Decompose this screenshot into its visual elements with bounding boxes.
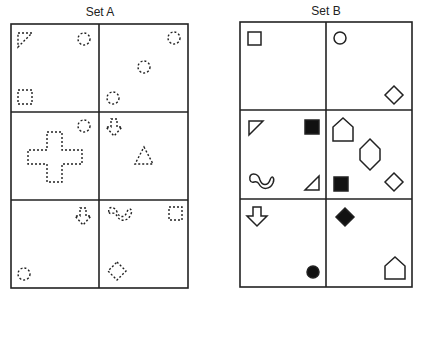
dotted-circle-icon: [18, 268, 30, 280]
down-arrow-icon: [247, 207, 267, 226]
dotted-cross-icon: [28, 132, 82, 182]
right-triangle-icon: [249, 121, 263, 135]
dotted-circle-icon: [168, 32, 180, 44]
diamond-icon: [385, 86, 403, 104]
filled-square-icon: [334, 177, 348, 191]
diamond-icon: [385, 173, 403, 191]
dotted-circle-icon: [78, 120, 90, 132]
dotted-diamond-icon: [108, 262, 126, 280]
hexagon-icon: [360, 139, 380, 170]
filled-circle-icon: [307, 266, 319, 278]
dotted-right-triangle-icon: [18, 33, 32, 47]
pentagon-house-icon: [333, 118, 353, 141]
dotted-square-icon: [18, 90, 32, 104]
right-triangle-icon: [305, 176, 319, 190]
dotted-circle-icon: [78, 33, 90, 45]
dotted-square-icon: [169, 207, 182, 220]
set-a-grid: [11, 24, 188, 288]
dotted-triangle-icon: [135, 147, 153, 164]
bongard-diagram: [0, 0, 436, 355]
dotted-down-arrow-icon: [75, 208, 91, 225]
wave-icon: [250, 174, 274, 188]
pentagon-house-icon: [385, 257, 405, 279]
dotted-circle-icon: [107, 92, 119, 104]
circle-icon: [334, 32, 346, 44]
filled-diamond-icon: [336, 208, 354, 226]
square-icon: [248, 32, 261, 45]
set-a-shapes: [18, 32, 182, 280]
dotted-down-arrow-icon: [106, 119, 122, 136]
filled-square-icon: [305, 120, 319, 134]
set-b-grid: [240, 22, 412, 287]
dotted-circle-icon: [138, 61, 150, 73]
dotted-wave-icon: [109, 208, 132, 221]
